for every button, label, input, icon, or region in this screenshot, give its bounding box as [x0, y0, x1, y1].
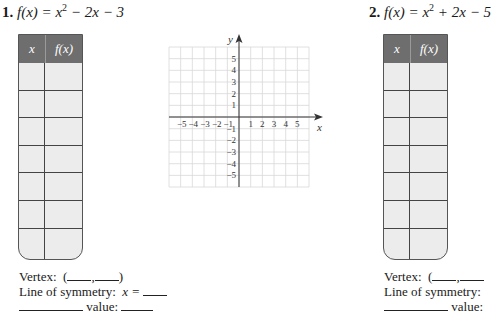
min-max-blank[interactable]: [384, 300, 448, 311]
table-row[interactable]: [19, 173, 82, 201]
symmetry-blank[interactable]: [143, 285, 167, 296]
coordinate-grid: x y −5−4−3−2−11234554321−1−2−3−4−5: [160, 28, 330, 198]
vertex-x-blank[interactable]: [432, 270, 456, 281]
svg-text:4: 4: [232, 65, 237, 75]
table-row[interactable]: [384, 201, 447, 229]
table-row[interactable]: [384, 118, 447, 146]
svg-text:1: 1: [248, 119, 253, 129]
column-divider: [409, 63, 410, 259]
table-header: x f(x): [19, 35, 82, 63]
problem-2-table: x f(x): [383, 34, 448, 260]
problem-1-title: 1. f(x) = x2 − 2x − 3: [2, 2, 124, 21]
vertex-y-blank[interactable]: [95, 270, 119, 281]
table-row[interactable]: [384, 91, 447, 119]
table-row[interactable]: [19, 146, 82, 174]
svg-text:3: 3: [272, 119, 277, 129]
svg-text:−4: −4: [189, 119, 199, 129]
column-divider: [44, 63, 45, 259]
header-x: x: [19, 35, 46, 63]
problem-2-number: 2.: [369, 4, 380, 20]
symmetry-line: Line of symmetry: x =: [19, 284, 167, 299]
svg-text:−2: −2: [212, 119, 222, 129]
table-row[interactable]: [19, 63, 82, 91]
graph-svg: x y −5−4−3−2−11234554321−1−2−3−4−5: [160, 28, 330, 198]
min-max-blank[interactable]: [19, 300, 83, 311]
svg-text:−4: −4: [226, 159, 236, 169]
svg-text:−5: −5: [226, 170, 236, 180]
table-row[interactable]: [384, 229, 447, 260]
value-line: value:: [384, 299, 484, 314]
svg-text:5: 5: [232, 54, 237, 64]
vertex-y-blank[interactable]: [460, 270, 484, 281]
symmetry-line: Line of symmetry:: [384, 284, 484, 299]
vertex-line: Vertex: (,: [384, 269, 484, 284]
table-row[interactable]: [384, 63, 447, 91]
value-blank[interactable]: [121, 300, 153, 311]
table-row[interactable]: [384, 146, 447, 174]
problem-1-table: x f(x): [18, 34, 83, 260]
svg-text:4: 4: [283, 119, 288, 129]
svg-text:3: 3: [232, 77, 237, 87]
problem-2-title: 2. f(x) = x2 + 2x − 5: [369, 2, 491, 21]
header-x: x: [384, 35, 411, 63]
svg-text:5: 5: [295, 119, 300, 129]
header-fx: f(x): [46, 35, 82, 63]
problem-2-answers: Vertex: (, Line of symmetry: value:: [384, 269, 484, 314]
svg-text:1: 1: [232, 100, 237, 110]
problem-1-answers: Vertex: (,) Line of symmetry: x = value:: [19, 269, 167, 314]
table-row[interactable]: [19, 201, 82, 229]
problem-1-equation: f(x) = x2 − 2x − 3: [17, 4, 124, 20]
svg-text:−5: −5: [177, 119, 187, 129]
table-row[interactable]: [19, 118, 82, 146]
table-row[interactable]: [19, 91, 82, 119]
svg-text:2: 2: [260, 119, 265, 129]
vertex-line: Vertex: (,): [19, 269, 167, 284]
table-header: x f(x): [384, 35, 447, 63]
header-fx: f(x): [411, 35, 447, 63]
table-row[interactable]: [384, 173, 447, 201]
svg-text:−3: −3: [200, 119, 210, 129]
problem-2-equation: f(x) = x2 + 2x − 5: [384, 4, 491, 20]
svg-text:y: y: [227, 33, 233, 45]
svg-text:−3: −3: [226, 147, 236, 157]
table-row[interactable]: [19, 229, 82, 260]
svg-text:x: x: [316, 121, 322, 133]
problem-1-number: 1.: [2, 4, 13, 20]
value-line: value:: [19, 299, 167, 314]
svg-text:2: 2: [232, 89, 237, 99]
vertex-x-blank[interactable]: [67, 270, 91, 281]
svg-text:−2: −2: [226, 135, 236, 145]
svg-text:−1: −1: [226, 124, 236, 134]
